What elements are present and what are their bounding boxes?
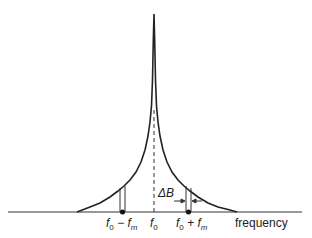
- f0-minus-fm-label: f0 − fm: [106, 216, 138, 232]
- f0-label: f0: [150, 216, 158, 232]
- spectrum-diagram: ΔB f0 − fm f0 f0 + fm frequency: [0, 0, 312, 238]
- f0-plus-fm-label: f0 + fm: [176, 216, 208, 232]
- bandwidth-arrows: [174, 199, 202, 203]
- frequency-axis-label: frequency: [235, 216, 288, 230]
- delta-b-label: ΔB: [157, 186, 174, 200]
- spectrum-curve: [77, 14, 237, 212]
- lower-sideband-marker: [120, 186, 125, 215]
